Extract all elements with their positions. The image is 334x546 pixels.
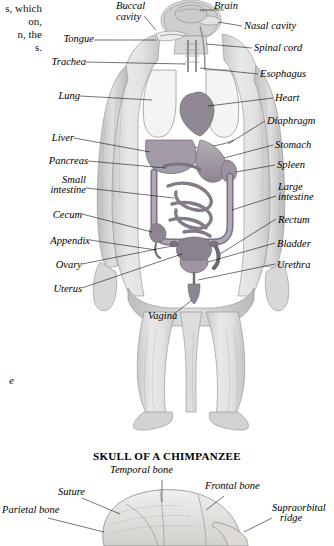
label-cecum: Cecum [48, 209, 82, 220]
margin-line-2: n, the [0, 28, 42, 41]
label-esophagus: Esophagus [260, 68, 306, 79]
chimpanzee-anatomy-figure: Buccal cavity Brain Tongue Trachea Lung … [48, 0, 334, 432]
label-nasal-cavity: Nasal cavity [244, 20, 296, 31]
label-urethra: Urethra [277, 259, 310, 270]
label-appendix: Appendix [48, 235, 90, 246]
skull-label-parietal-bone: Parietal bone [2, 504, 59, 515]
margin-running-text: s, which on, n, the s. [0, 2, 42, 54]
label-liver: Liver [48, 132, 74, 143]
label-brain: Brain [214, 0, 238, 11]
skull-label-temporal-bone: Temporal bone [110, 464, 173, 475]
skull-section-title: SKULL OF A CHIMPANZEE [0, 450, 334, 462]
label-uterus: Uterus [48, 283, 82, 294]
label-bladder: Bladder [277, 238, 311, 249]
label-buccal-cavity: Buccal cavity [116, 0, 145, 22]
margin-line-3: s. [0, 41, 42, 54]
label-vagina: Vagina [148, 310, 177, 321]
skull-label-supraorbital-ridge-line2: ridge [280, 512, 302, 523]
label-diaphragm: Diaphragm [267, 115, 315, 126]
margin-line-0: s, which [0, 2, 42, 15]
label-small-intestine-line2: intestine [48, 184, 86, 195]
label-trachea: Trachea [48, 56, 86, 67]
label-stomach: Stomach [275, 139, 311, 150]
skull-label-suture: Suture [58, 486, 85, 497]
label-tongue: Tongue [48, 33, 94, 44]
margin-italic-fragment: e [0, 374, 14, 386]
label-buccal-cavity-line1: Buccal [116, 0, 145, 11]
margin-line-1: on, [0, 15, 42, 28]
label-buccal-cavity-line2: cavity [116, 11, 141, 22]
chimpanzee-skull-figure: Temporal bone Frontal bone Suture Pariet… [0, 466, 334, 546]
label-spinal-cord: Spinal cord [254, 42, 302, 53]
label-large-intestine-line2: intestine [278, 191, 314, 202]
skull-label-frontal-bone: Frontal bone [205, 480, 260, 491]
label-rectum: Rectum [278, 214, 310, 225]
label-spleen: Spleen [277, 159, 305, 170]
label-lung: Lung [48, 90, 80, 101]
label-ovary: Ovary [48, 259, 82, 270]
label-pancreas: Pancreas [48, 155, 88, 166]
textbook-page: s, which on, n, the s. e [0, 0, 334, 546]
label-heart: Heart [275, 92, 300, 103]
